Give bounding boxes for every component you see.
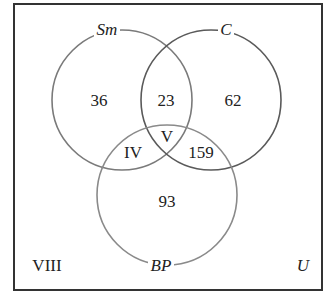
set-label-bp: BP: [151, 256, 172, 275]
venn-diagram: Sm C BP 36 23 62 IV V 159 93 VIII U: [0, 0, 331, 301]
region-bp-only: 93: [159, 192, 176, 211]
set-label-c: C: [220, 20, 232, 39]
region-c-only: 62: [225, 91, 242, 110]
region-c-bp: 159: [188, 143, 214, 162]
region-all-three: V: [161, 127, 174, 146]
region-outside: VIII: [32, 256, 62, 275]
universe-label: U: [297, 256, 311, 275]
region-sm-c: 23: [158, 91, 175, 110]
set-label-sm: Sm: [97, 20, 118, 39]
region-sm-only: 36: [91, 91, 108, 110]
region-sm-bp: IV: [124, 143, 143, 162]
